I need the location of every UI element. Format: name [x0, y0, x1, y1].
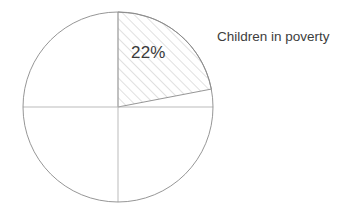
pie-chart-figure: 22% Children in poverty [0, 0, 348, 217]
slice-value-label: 22% [131, 43, 166, 63]
series-name-label: Children in poverty [217, 28, 330, 46]
